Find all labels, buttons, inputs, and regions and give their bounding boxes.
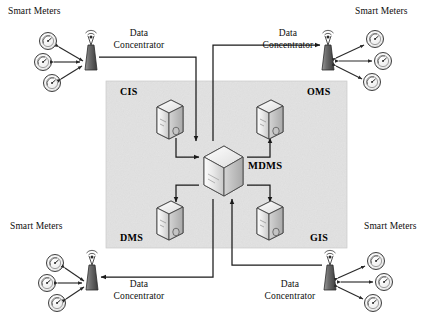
antenna-tower-icon-bl — [86, 250, 98, 290]
smart-meter-gauge-icon-tl-3 — [44, 75, 61, 92]
smart-meter-gauge-icon-tr-3 — [364, 74, 381, 91]
smart-meters-label-bottom-right: Smart Meters — [364, 221, 417, 231]
antenna-tower-icon-tr — [322, 30, 334, 70]
link-br-meter1 — [338, 266, 365, 278]
link-br-meter3 — [338, 287, 363, 299]
link-bl-meter3 — [66, 287, 84, 299]
link-tl-meter1 — [59, 47, 83, 61]
link-tl-meter3 — [61, 66, 82, 79]
gis-server-icon — [257, 201, 283, 240]
system-label-cis: CIS — [120, 86, 138, 97]
system-label-gis: GIS — [310, 232, 328, 243]
system-label-oms: OMS — [307, 86, 331, 97]
smart-meter-gauge-icon-br-2 — [376, 274, 393, 291]
cis-server-icon — [157, 100, 183, 139]
smart-meter-gauge-icon-bl-1 — [47, 255, 64, 272]
edge-group-top-left — [35, 30, 98, 91]
antenna-tower-icon-tl — [85, 30, 97, 70]
smart-meter-gauge-icon-bl-2 — [39, 275, 56, 292]
link-bl-meter1 — [65, 268, 84, 281]
dms-server-icon — [157, 201, 183, 240]
smart-meter-gauge-icon-bl-3 — [49, 295, 66, 312]
smart-meters-label-bottom-left: Smart Meters — [10, 221, 63, 231]
antenna-tower-icon-br — [324, 250, 336, 290]
diagram-canvas: Smart Meters Smart Meters Smart Meters S… — [0, 0, 424, 317]
link-tr-meter1 — [336, 45, 364, 58]
system-label-dms: DMS — [120, 232, 143, 243]
diagram-svg — [0, 0, 424, 317]
smart-meter-gauge-icon-tl-2 — [35, 54, 52, 71]
smart-meter-gauge-icon-tl-1 — [40, 33, 57, 50]
smart-meter-gauge-icon-br-1 — [368, 253, 385, 270]
oms-server-icon — [257, 100, 283, 139]
mdms-server-icon — [204, 146, 243, 196]
smart-meters-label-top-right: Smart Meters — [355, 6, 408, 16]
mdms-label: MDMS — [248, 160, 282, 171]
edge-group-bottom-right — [324, 250, 393, 311]
smart-meter-gauge-icon-tr-2 — [375, 53, 392, 70]
edge-group-bottom-left — [39, 250, 99, 311]
smart-meters-label-top-left: Smart Meters — [8, 6, 61, 16]
link-tr-meter3 — [336, 66, 362, 79]
smart-meter-gauge-icon-br-3 — [365, 295, 382, 312]
smart-meter-gauge-icon-tr-1 — [367, 31, 384, 48]
